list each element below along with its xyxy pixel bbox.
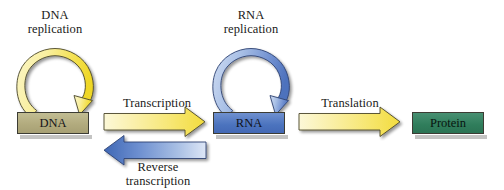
dna-box-shadow [20,135,92,139]
translation-arrow-graphic [299,107,400,137]
central-dogma-diagram: DNA replication RNA replication Transcri… [0,0,504,190]
rna-box-shadow [216,135,288,139]
translation-label: Translation [305,96,395,110]
dna-replication-label-line2: replication [28,22,83,36]
dna-replication-label: DNA replication [21,8,89,36]
protein-box-label: Protein [430,116,466,131]
dna-replication-loop-graphic [17,49,94,118]
protein-box-shadow [415,135,487,139]
rna-replication-label-line1: RNA [238,8,265,22]
rna-box: RNA [213,112,285,134]
reverse-transcription-label-line1: Reverse [138,160,179,174]
transcription-label-text: Transcription [123,96,191,110]
reverse-transcription-label: Reverse transcription [112,160,204,188]
rna-box-label: RNA [236,116,262,131]
transcription-label: Transcription [109,96,205,110]
transcription-arrow-graphic [104,107,205,137]
protein-box: Protein [412,112,484,134]
translation-label-text: Translation [321,96,379,110]
reverse-transcription-label-line2: transcription [126,174,190,188]
dna-replication-label-line1: DNA [41,8,68,22]
rna-replication-label-line2: replication [224,22,279,36]
dna-box: DNA [17,112,89,134]
rna-replication-loop-graphic [213,49,290,118]
rna-replication-label: RNA replication [217,8,285,36]
dna-box-label: DNA [39,116,66,131]
